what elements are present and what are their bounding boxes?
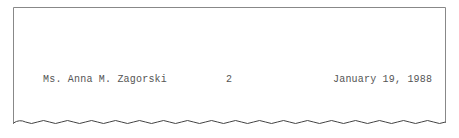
letter-page-fragment: Ms. Anna M. Zagorski 2 January 19, 1988: [13, 7, 446, 125]
recipient-name: Ms. Anna M. Zagorski: [43, 74, 167, 85]
letter-date: January 19, 1988: [333, 74, 432, 85]
page-number: 2: [226, 74, 232, 85]
torn-page-border: [13, 7, 446, 127]
